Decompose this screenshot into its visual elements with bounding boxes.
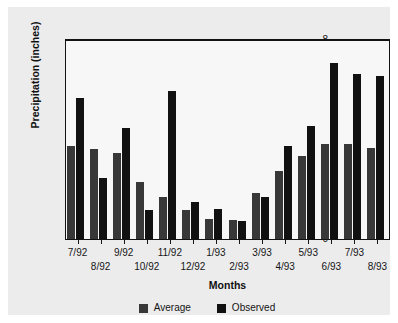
bar-average bbox=[298, 156, 306, 239]
bar-group bbox=[181, 41, 204, 239]
x-tick-label: 7/92 bbox=[56, 247, 100, 258]
x-tick-label: 10/92 bbox=[125, 261, 169, 272]
x-tick-mark bbox=[216, 240, 217, 244]
x-tick-label: 3/93 bbox=[240, 247, 284, 258]
bar-group bbox=[274, 41, 297, 239]
bar-observed bbox=[284, 146, 292, 239]
x-tick-mark bbox=[170, 240, 171, 244]
bar-group bbox=[135, 41, 158, 239]
x-tick-mark bbox=[354, 240, 355, 244]
bar-group bbox=[297, 41, 320, 239]
bar-observed bbox=[168, 91, 176, 240]
x-tick-mark bbox=[262, 240, 263, 244]
bar-average bbox=[182, 210, 190, 239]
bar-average bbox=[275, 171, 283, 239]
bar-group bbox=[89, 41, 112, 239]
bar-observed bbox=[376, 76, 384, 239]
bar-average bbox=[229, 220, 237, 239]
chart-canvas: Precipitation (inches) 012345678 7/928/9… bbox=[8, 7, 390, 315]
x-tick-label: 8/93 bbox=[355, 261, 398, 272]
bar-group bbox=[66, 41, 89, 239]
x-tick-mark bbox=[124, 240, 125, 244]
bar-average bbox=[90, 149, 98, 239]
bar-observed bbox=[238, 221, 246, 239]
x-tick-mark bbox=[308, 240, 309, 244]
bar-average bbox=[367, 148, 375, 239]
bar-group bbox=[320, 41, 343, 239]
legend-swatch-icon bbox=[139, 304, 148, 313]
legend-swatch-icon bbox=[217, 304, 226, 313]
x-tick-label: 1/93 bbox=[194, 247, 238, 258]
bar-group bbox=[158, 41, 181, 239]
bar-average bbox=[321, 144, 329, 239]
bar-observed bbox=[191, 202, 199, 239]
y-axis-title: Precipitation (inches) bbox=[29, 0, 41, 165]
bar-observed bbox=[76, 98, 84, 239]
x-tick-mark bbox=[331, 240, 332, 244]
x-tick-mark bbox=[193, 240, 194, 244]
x-tick-mark bbox=[239, 240, 240, 244]
bar-observed bbox=[330, 63, 338, 239]
bar-group bbox=[251, 41, 274, 239]
bar-group bbox=[366, 41, 389, 239]
y-axis: Precipitation (inches) bbox=[8, 7, 65, 315]
x-tick-label: 2/93 bbox=[217, 261, 261, 272]
x-tick-mark bbox=[377, 240, 378, 244]
bar-average bbox=[252, 193, 260, 239]
bar-group bbox=[204, 41, 227, 239]
x-axis-title: Months bbox=[65, 279, 390, 291]
bar-average bbox=[67, 146, 75, 239]
bar-series-container bbox=[66, 41, 389, 239]
legend-label: Observed bbox=[232, 303, 275, 313]
bar-average bbox=[344, 144, 352, 239]
bar-observed bbox=[353, 74, 361, 239]
legend-label: Average bbox=[154, 303, 191, 313]
bar-group bbox=[228, 41, 251, 239]
x-tick-label: 5/93 bbox=[286, 247, 330, 258]
bar-observed bbox=[145, 210, 153, 239]
x-tick-mark bbox=[101, 240, 102, 244]
bar-observed bbox=[99, 178, 107, 239]
bar-observed bbox=[261, 197, 269, 239]
plot-area bbox=[65, 39, 390, 240]
bar-average bbox=[136, 182, 144, 239]
bar-group bbox=[112, 41, 135, 239]
chart-figure: Precipitation (inches) 012345678 7/928/9… bbox=[0, 0, 398, 323]
x-tick-label: 4/93 bbox=[263, 261, 307, 272]
bar-observed bbox=[214, 209, 222, 239]
x-tick-label: 12/92 bbox=[171, 261, 215, 272]
x-tick-label: 6/93 bbox=[309, 261, 353, 272]
bar-observed bbox=[307, 126, 315, 239]
x-tick-label: 9/92 bbox=[102, 247, 146, 258]
x-tick-label: 7/93 bbox=[332, 247, 376, 258]
bar-average bbox=[113, 153, 121, 239]
x-tick-mark bbox=[285, 240, 286, 244]
legend-item-observed[interactable]: Observed bbox=[217, 303, 275, 313]
x-tick-label: 8/92 bbox=[79, 261, 123, 272]
x-tick-mark bbox=[78, 240, 79, 244]
legend-item-average[interactable]: Average bbox=[139, 303, 191, 313]
bar-average bbox=[205, 219, 213, 239]
x-tick-label: 11/92 bbox=[148, 247, 192, 258]
bar-average bbox=[159, 197, 167, 239]
bar-group bbox=[343, 41, 366, 239]
bar-observed bbox=[122, 128, 130, 239]
chart-legend: AverageObserved bbox=[8, 303, 398, 313]
x-tick-mark bbox=[147, 240, 148, 244]
